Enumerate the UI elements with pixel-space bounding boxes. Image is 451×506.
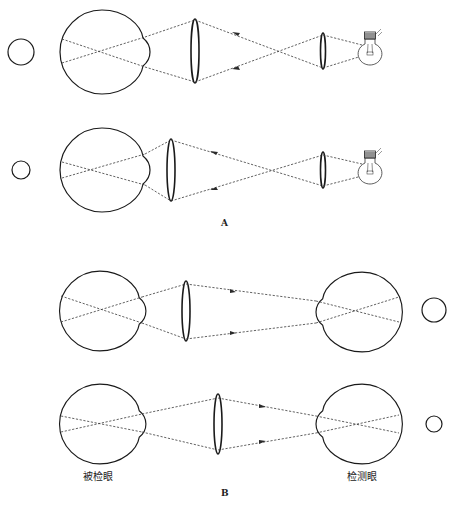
row-a1 — [8, 10, 382, 94]
examined-eye-label: 被检眼 — [83, 470, 113, 482]
optics-diagram: A — [0, 0, 451, 506]
pupil-reflex-circle-icon — [8, 39, 34, 65]
arrow-icon — [230, 289, 236, 293]
eye-icon — [60, 10, 150, 94]
row-b2 — [60, 384, 442, 464]
lens-icon — [321, 33, 326, 69]
panel-label-b: B — [221, 488, 229, 498]
lens-icon — [321, 152, 326, 188]
pupil-reflex-circle-icon — [426, 416, 442, 432]
observer-eye-label: 检测眼 — [347, 470, 377, 482]
eye-icon — [316, 384, 402, 464]
arrow-icon — [210, 151, 218, 155]
panel-a: A — [8, 10, 382, 228]
arrow-icon — [230, 331, 236, 335]
eye-icon — [60, 128, 150, 212]
lens-icon — [167, 139, 175, 201]
row-a2 — [12, 128, 382, 212]
light-bulb-icon — [358, 29, 382, 65]
row-b1 — [60, 271, 446, 352]
eye-icon — [60, 271, 146, 351]
pupil-reflex-circle-icon — [422, 298, 446, 322]
lens-icon — [191, 19, 199, 83]
lens-icon — [182, 281, 190, 341]
eye-icon — [316, 272, 402, 352]
lens-icon — [214, 394, 222, 454]
panel-label-a: A — [220, 218, 229, 228]
arrow-icon — [259, 404, 266, 408]
panel-b: 被检眼 检测眼 B — [60, 271, 446, 498]
pupil-reflex-circle-icon — [12, 161, 30, 179]
light-bulb-icon — [358, 148, 382, 184]
